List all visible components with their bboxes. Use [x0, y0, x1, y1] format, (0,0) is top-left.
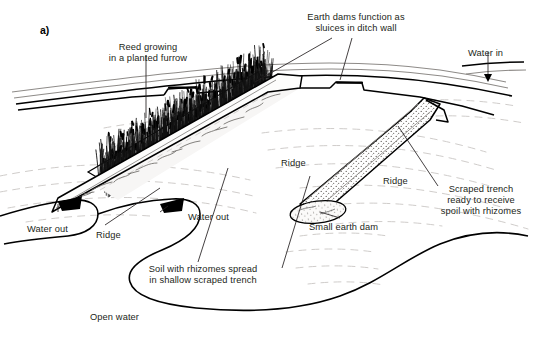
reed-seedhead — [123, 134, 124, 139]
reed-seedhead — [224, 76, 225, 81]
reed-seedhead — [152, 113, 153, 117]
label-water-out-left: Water out — [27, 224, 68, 235]
reed-seedhead — [212, 77, 213, 80]
label-open-water: Open water — [90, 312, 139, 323]
reed-seedhead — [168, 102, 169, 106]
reed-seedhead — [127, 132, 128, 136]
reed-seedhead — [135, 144, 136, 148]
panel-label: a) — [40, 24, 49, 36]
figure-canvas: a) Reed growing in a planted furrow Eart… — [0, 0, 541, 357]
reed-seedhead — [157, 122, 158, 128]
reed-seedhead — [247, 73, 248, 77]
reed-seedhead — [181, 100, 182, 104]
label-earth-dams: Earth dams function as sluices in ditch … — [285, 12, 427, 34]
reed-seedhead — [173, 105, 174, 112]
reed-seedhead — [132, 122, 133, 125]
reed-seedhead — [208, 91, 209, 96]
reed-seedhead — [154, 121, 155, 128]
label-water-in: Water in — [468, 48, 503, 59]
reed-seedhead — [121, 132, 122, 137]
reed-seedhead — [150, 118, 151, 125]
reed-seedhead — [205, 95, 206, 100]
label-ridge-right: Ridge — [383, 176, 408, 187]
label-water-out-mid: Water out — [188, 212, 229, 223]
label-small-earth-dam: Small earth dam — [309, 222, 378, 233]
reed-seedhead — [120, 146, 121, 151]
reed-seedhead — [185, 100, 186, 107]
label-reed-furrow: Reed growing in a planted furrow — [100, 42, 196, 64]
reed-seedhead — [170, 123, 171, 129]
label-scraped-trench: Scraped trench ready to receive spoil wi… — [425, 184, 537, 218]
reed-seedhead — [210, 83, 211, 87]
reed-seedhead — [237, 58, 238, 63]
diagram-artwork — [0, 0, 541, 357]
reed-seedhead — [150, 109, 151, 115]
reed-seedhead — [200, 84, 201, 89]
reed-seedhead — [187, 88, 188, 91]
label-ridge-center: Ridge — [281, 158, 306, 169]
reed-seedhead — [229, 69, 230, 73]
label-ridge-left: Ridge — [96, 230, 121, 241]
reed-seedhead — [192, 93, 193, 97]
label-soil-rhizomes: Soil with rhizomes spread in shallow scr… — [118, 264, 288, 286]
reed-stroke — [224, 82, 225, 107]
reed-seedhead — [263, 44, 264, 48]
